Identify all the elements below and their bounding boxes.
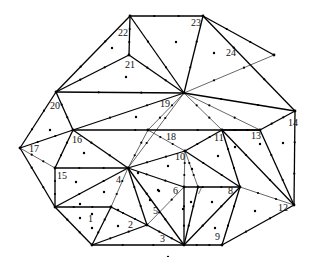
edge-node-point [196,244,198,246]
mesh-vertex [221,129,224,132]
edge-node-point [158,211,160,213]
element-label: 20 [50,100,60,111]
edge-node-point [208,244,210,246]
mesh-edge [56,92,73,130]
element-label: 6 [173,185,178,196]
edge-node-point [263,78,265,80]
edge-node-point [146,173,148,175]
mesh-edge [184,187,198,245]
edge-node-point [159,117,161,119]
mesh-vertex [54,167,57,170]
element-label: 24 [226,47,236,58]
element-label: 5 [153,205,158,216]
edge-node-point [109,117,111,119]
interior-point [211,201,213,203]
edge-node-point [294,141,296,143]
edge-node-point [97,231,99,233]
interior-point [149,199,151,201]
edge-node-point [193,174,195,176]
edge-node-point [103,180,105,182]
edge-node-point [146,67,148,69]
mesh-edge [129,55,184,93]
mesh-edge [184,55,274,93]
edge-node-point [134,129,136,131]
edge-node-point [109,154,111,156]
edge-node-point [192,205,194,207]
interior-point [190,201,192,203]
edge-node-point [104,40,106,42]
mesh-vertex [72,129,75,132]
edge-node-point [116,193,118,195]
edge-node-point [271,123,273,125]
mesh-edge [56,92,184,93]
element-label: 7 [197,185,202,196]
mesh-vertex [110,206,113,209]
edge-node-point [171,199,173,201]
edge-node-point [270,154,272,156]
interior-point [135,116,137,118]
edge-node-point [220,205,222,207]
edge-node-point [31,167,33,169]
element-label: 3 [160,233,165,244]
interior-point [49,129,51,131]
edge-node-point [234,117,236,119]
edge-node-point [202,162,204,164]
edge-node-point [134,154,136,156]
edge-node-point [165,66,167,68]
edge-node-point [146,161,148,163]
element-label: 18 [166,131,176,142]
edge-node-point [104,66,106,68]
interior-point [254,210,256,212]
element-label: 1 [88,213,93,224]
edge-node-point [257,192,259,194]
interior-point [75,181,77,183]
edge-node-point [243,67,245,69]
edge-node-point [171,104,173,106]
interior-point [175,41,177,43]
mesh-edge [56,55,129,92]
edge-node-point [171,237,173,239]
mesh-vertex [128,54,131,57]
edge-node-point [164,117,166,119]
edge-node-point [209,136,211,138]
mesh-vertex [147,129,150,132]
edge-node-point [54,193,56,195]
edge-node-point [134,218,136,220]
interior-point [191,168,193,170]
element-label: 16 [72,134,82,145]
edge-node-point [66,142,68,144]
edge-node-point [226,28,228,30]
mesh-vertex [294,110,297,113]
element-label: 22 [118,27,128,38]
edge-node-point [178,15,180,17]
mesh-vertex [129,15,132,18]
edge-node-point [146,142,148,144]
edge-node-point [165,79,167,81]
edge-node-point [146,104,148,106]
edge-node-point [78,193,80,195]
mesh-edge [20,148,55,207]
edge-node-point [60,154,62,156]
edge-node-point [227,148,229,150]
element-label: 17 [29,143,39,154]
edge-node-point [245,154,247,156]
interior-points [49,41,284,257]
mesh-edge [260,130,294,205]
edge-node-point [121,180,123,182]
mesh-vertex [55,91,58,94]
edge-node-point [140,142,142,144]
edge-node-point [159,136,161,138]
mesh-vertex [293,204,296,207]
mesh-edge [129,16,130,55]
edge-node-point [98,91,100,93]
edge-node-point [188,162,190,164]
edge-node-point [189,66,191,68]
element-label: 19 [160,98,170,109]
edge-node-point [79,79,81,81]
edge-node-point [269,179,271,181]
edge-node-point [133,186,135,188]
edge-node-point [172,143,174,145]
edge-node-point [66,116,68,118]
element-label: 12 [278,202,288,213]
edge-node-point [183,225,185,227]
